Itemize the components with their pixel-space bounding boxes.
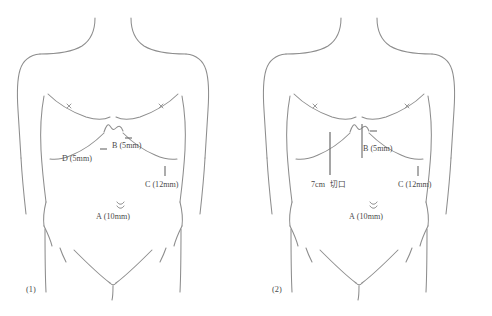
port-label-d-figure-1: D (5mm) bbox=[62, 154, 92, 163]
incision-length-text: 7cm bbox=[311, 180, 326, 189]
port-marker-a-umbilicus-figure-2 bbox=[370, 202, 377, 208]
port-label-a-figure-1: A (10mm) bbox=[96, 212, 130, 221]
figure-2-torso-diagram: 7cm 切口 B (5mm) C (12mm) A (10mm) (2) bbox=[246, 0, 492, 316]
torso-outline-figure-2 bbox=[263, 18, 454, 300]
torso-outline-figure-1 bbox=[17, 18, 208, 300]
figure-1-torso-diagram: B (5mm) D (5mm) C (12mm) A (10mm) (1) bbox=[0, 0, 246, 316]
port-label-b-figure-1: B (5mm) bbox=[112, 141, 142, 150]
port-label-c-figure-1: C (12mm) bbox=[145, 180, 179, 189]
nipple-marker-left-figure-2 bbox=[313, 104, 317, 108]
incision-kind-text: 切口 bbox=[330, 180, 346, 189]
figure-2-caption: (2) bbox=[272, 285, 282, 294]
incision-label-figure-2: 7cm 切口 bbox=[311, 180, 346, 189]
figure-1-caption: (1) bbox=[26, 285, 36, 294]
port-label-a-figure-2: A (10mm) bbox=[349, 212, 383, 221]
nipple-marker-left-figure-1 bbox=[67, 104, 71, 108]
port-marker-a-umbilicus-figure-1 bbox=[117, 202, 124, 208]
diagram-canvas: B (5mm) D (5mm) C (12mm) A (10mm) (1) bbox=[0, 0, 492, 316]
port-label-b-figure-2: B (5mm) bbox=[363, 144, 393, 153]
port-label-c-figure-2: C (12mm) bbox=[398, 180, 432, 189]
